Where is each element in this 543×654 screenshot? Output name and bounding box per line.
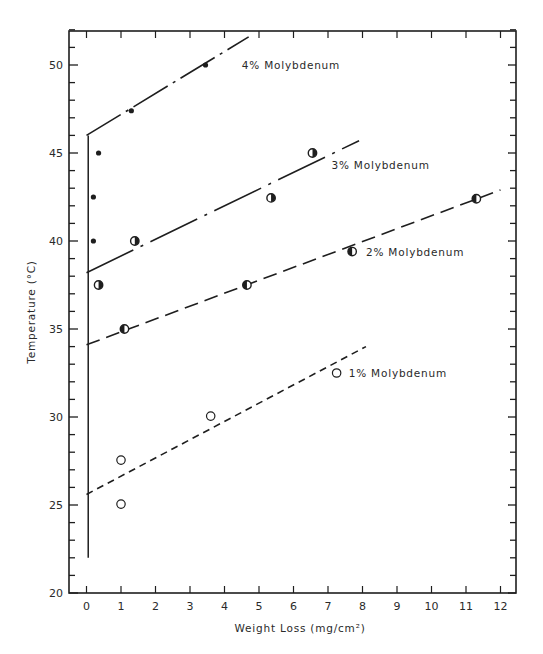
x-tick-label: 10 <box>425 600 439 613</box>
data-point <box>203 62 208 67</box>
y-tick-label: 50 <box>49 59 63 72</box>
chart: 0123456789101112 20253035404550 4% Molyb… <box>0 0 543 654</box>
data-point <box>117 456 125 464</box>
data-point <box>117 500 125 508</box>
series-label: 4% Molybdenum <box>242 59 340 71</box>
y-tick-label: 40 <box>49 235 63 248</box>
data-point <box>308 149 316 157</box>
x-tick-label: 2 <box>152 600 159 613</box>
y-tick-label: 30 <box>49 411 63 424</box>
series-label: 1% Molybdenum <box>349 367 447 379</box>
data-point <box>332 369 340 377</box>
x-tick-label: 9 <box>394 600 401 613</box>
fit-line <box>87 190 501 345</box>
data-point <box>348 247 356 255</box>
series-label: 2% Molybdenum <box>366 246 464 258</box>
x-tick-label: 5 <box>256 600 263 613</box>
x-tick-label: 4 <box>221 600 228 613</box>
plot-frame <box>69 31 516 593</box>
series-4pct-molybdenum: 4% Molybdenum <box>87 37 341 244</box>
fit-line <box>87 141 360 273</box>
data-point <box>129 108 134 113</box>
data-point <box>472 195 480 203</box>
y-axis-title: Temperature (°C) <box>25 260 37 364</box>
x-tick-label: 12 <box>494 600 508 613</box>
x-tick-label: 6 <box>290 600 297 613</box>
data-point <box>267 194 275 202</box>
series-3pct-molybdenum: 3% Molybdenum <box>87 141 430 290</box>
data-point <box>91 194 96 199</box>
series-1pct-molybdenum: 1% Molybdenum <box>87 347 448 509</box>
x-tick-label: 11 <box>459 600 473 613</box>
x-tick-label: 8 <box>359 600 366 613</box>
plot-border <box>69 31 516 593</box>
data-point <box>207 412 215 420</box>
data-point <box>91 238 96 243</box>
x-tick-label: 0 <box>83 600 90 613</box>
fit-line <box>87 347 366 495</box>
y-tick-label: 35 <box>49 323 63 336</box>
series-label: 3% Molybdenum <box>331 159 429 171</box>
series-2pct-molybdenum: 2% Molybdenum <box>87 190 501 345</box>
y-tick-label: 45 <box>49 147 63 160</box>
data-point <box>94 281 102 289</box>
x-axis-title: Weight Loss (mg/cm²) <box>234 622 365 634</box>
x-tick-label: 7 <box>325 600 332 613</box>
data-point <box>120 325 128 333</box>
y-tick-label: 25 <box>49 499 63 512</box>
x-tick-label: 3 <box>187 600 194 613</box>
series-layer: 4% Molybdenum3% Molybdenum2% Molybdenum1… <box>87 37 501 558</box>
data-point <box>131 237 139 245</box>
fit-line <box>87 37 249 136</box>
y-tick-label: 20 <box>49 587 63 600</box>
x-tick-label: 1 <box>118 600 125 613</box>
data-point <box>243 281 251 289</box>
data-point <box>96 150 101 155</box>
